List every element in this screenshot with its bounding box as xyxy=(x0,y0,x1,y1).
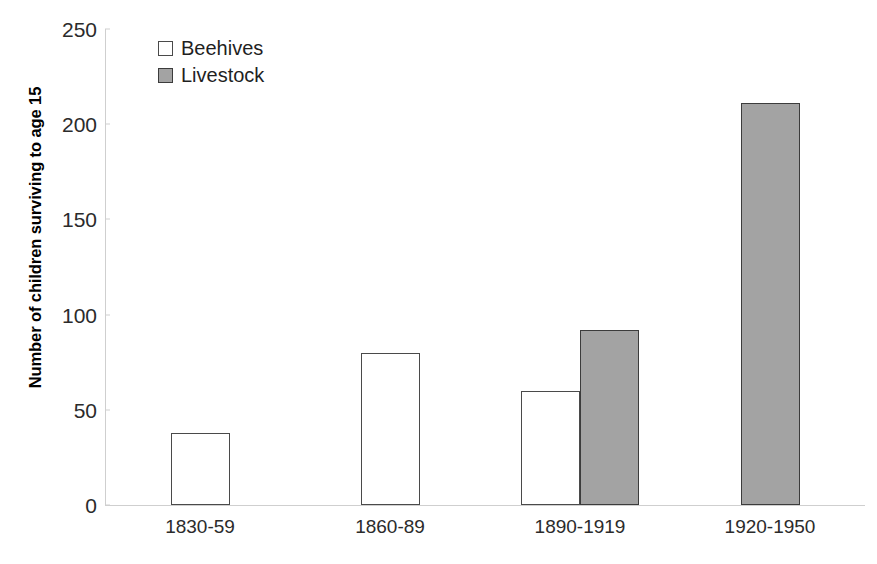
y-axis-tick-label: 100 xyxy=(25,304,97,325)
y-axis-tick-label: 150 xyxy=(25,209,97,230)
x-axis-tick-label: 1920-1950 xyxy=(725,516,816,538)
plot-area xyxy=(105,29,865,505)
y-axis-tick-mark xyxy=(105,505,110,506)
y-axis-tick-labels: 050100150200250 xyxy=(0,0,97,564)
y-axis-tick-mark xyxy=(105,124,110,125)
x-axis-tick-label: 1860-89 xyxy=(355,516,425,538)
x-axis-tick-label: 1890-1919 xyxy=(535,516,626,538)
bar-beehives-1890-1919 xyxy=(521,391,580,505)
chart-legend: Beehives Livestock xyxy=(158,38,264,85)
y-axis-tick-mark xyxy=(105,409,110,410)
bar-livestock-1890-1919 xyxy=(580,330,639,505)
x-axis-line xyxy=(105,505,865,506)
y-axis-tick-mark xyxy=(105,314,110,315)
filled-square-icon xyxy=(158,68,173,83)
x-axis-tick-label: 1830-59 xyxy=(165,516,235,538)
hollow-square-icon xyxy=(158,41,173,56)
legend-label-beehives: Beehives xyxy=(181,38,263,58)
y-axis-tick-label: 250 xyxy=(25,19,97,40)
y-axis-tick-label: 200 xyxy=(25,114,97,135)
legend-item-livestock: Livestock xyxy=(158,65,264,85)
y-axis-tick-mark xyxy=(105,29,110,30)
y-axis-tick-label: 0 xyxy=(25,495,97,516)
legend-label-livestock: Livestock xyxy=(181,65,264,85)
y-axis-tick-label: 50 xyxy=(25,399,97,420)
bar-beehives-1830-59 xyxy=(171,433,230,505)
bar-livestock-1920-1950 xyxy=(741,103,800,505)
bar-beehives-1860-89 xyxy=(361,353,420,505)
bar-chart: Number of children surviving to age 15 0… xyxy=(0,0,877,564)
y-axis-tick-mark xyxy=(105,219,110,220)
legend-item-beehives: Beehives xyxy=(158,38,264,58)
